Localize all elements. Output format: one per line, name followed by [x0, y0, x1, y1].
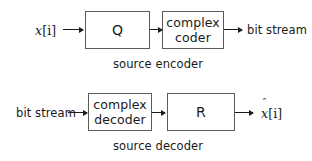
- block-complex-coder-line2: coder: [175, 30, 211, 45]
- block-complex-decoder-line2: decoder: [94, 112, 146, 127]
- block-quantizer: Q: [85, 11, 150, 49]
- arrow-input-to-complex-decoder: [68, 112, 87, 113]
- encoder-input-index: [i]: [42, 23, 56, 38]
- decoder-output-base-wrap: ˆx: [261, 106, 268, 121]
- block-reconstructor: R: [167, 93, 235, 131]
- block-complex-decoder-line1: complex: [93, 97, 147, 112]
- arrow-reconstructor-to-output: [235, 112, 253, 113]
- arrow-complex-decoder-to-reconstructor: [152, 112, 165, 113]
- arrow-input-to-quantizer: [63, 29, 83, 30]
- decoder-input-label: bit stream: [16, 106, 76, 120]
- block-complex-decoder: complex decoder: [88, 93, 152, 131]
- block-complex-coder: complex coder: [162, 11, 224, 49]
- block-reconstructor-label: R: [196, 105, 206, 120]
- decoder-output-index: [i]: [268, 106, 282, 121]
- caption-source-encoder: source encoder: [113, 57, 203, 71]
- block-complex-coder-line1: complex: [166, 15, 220, 30]
- block-quantizer-label: Q: [112, 23, 123, 38]
- decoder-output-label: ˆx[i]: [261, 106, 282, 121]
- arrow-complex-coder-to-output: [224, 29, 242, 30]
- hat-accent-icon: ˆ: [262, 99, 267, 110]
- encoder-output-label: bit stream: [247, 23, 307, 37]
- diagram-canvas: x[i] Q complex coder bit stream source e…: [0, 0, 312, 161]
- caption-source-decoder: source decoder: [113, 139, 203, 153]
- arrow-quantizer-to-complex-coder: [150, 29, 162, 30]
- encoder-input-label: x[i]: [35, 23, 56, 38]
